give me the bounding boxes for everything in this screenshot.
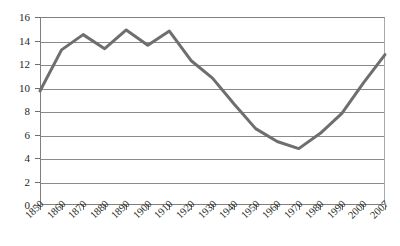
- x-tick-label: 1850: [23, 198, 46, 221]
- x-tick-label: 1960: [260, 198, 283, 221]
- x-tick-label: 1970: [282, 198, 305, 221]
- x-tick-label: 1930: [196, 198, 219, 221]
- x-tick-label: 1980: [303, 198, 326, 221]
- x-tick-label: 1940: [217, 198, 240, 221]
- x-tick-label: 2007: [368, 198, 391, 221]
- x-tick-label: 2000: [346, 198, 369, 221]
- chart-container: 0246810121416 18501860187018801890190019…: [0, 0, 400, 246]
- x-axis: 1850186018701880189019001910192019301940…: [0, 0, 400, 246]
- x-tick-label: 1920: [174, 198, 197, 221]
- x-tick-label: 1910: [152, 198, 175, 221]
- x-tick-label: 1890: [109, 198, 132, 221]
- x-tick-label: 1860: [45, 198, 68, 221]
- x-tick-label: 1990: [325, 198, 348, 221]
- x-tick-label: 1900: [131, 198, 154, 221]
- x-tick-label: 1950: [239, 198, 262, 221]
- x-tick-label: 1870: [66, 198, 89, 221]
- x-tick-label: 1880: [88, 198, 111, 221]
